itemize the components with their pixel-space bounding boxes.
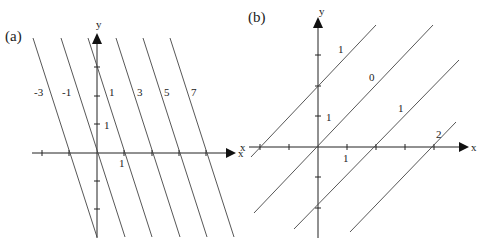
level-label-1: 1 bbox=[109, 86, 115, 98]
level-label-b-1-lower: 1 bbox=[398, 102, 404, 114]
level-label-b-2: 2 bbox=[436, 128, 442, 140]
level-label-neg1: -1 bbox=[62, 86, 71, 98]
panel-b-x-axis-neg-label: x bbox=[240, 141, 246, 153]
level-label-7: 7 bbox=[191, 86, 197, 98]
panel-b-y-arrow-icon bbox=[313, 17, 323, 28]
panel-a-y-axis-label: y bbox=[96, 18, 102, 30]
panel-a: (a) y x 1 1 -3 -1 1 3 5 7 bbox=[5, 18, 244, 238]
panel-b-x-unit-label: 1 bbox=[343, 152, 349, 164]
panel-b-y-unit-label: 1 bbox=[326, 111, 332, 123]
panel-b-x-arrow-icon bbox=[459, 142, 469, 152]
panel-a-level-lines bbox=[33, 38, 234, 237]
level-line-b-0 bbox=[254, 25, 433, 213]
panel-a-x-arrow-icon bbox=[226, 148, 236, 158]
level-line-1 bbox=[88, 38, 152, 237]
panel-a-label: (a) bbox=[5, 28, 22, 45]
level-label-neg3: -3 bbox=[34, 86, 44, 98]
panel-a-y-arrow-icon bbox=[92, 33, 102, 44]
level-line-7 bbox=[170, 38, 234, 237]
panel-a-y-unit-label: 1 bbox=[104, 119, 110, 131]
level-label-5: 5 bbox=[164, 86, 170, 98]
level-line-b-1-upper bbox=[251, 25, 376, 157]
panel-b: (b) y x x 1 1 1 0 1 2 bbox=[240, 5, 477, 238]
panel-a-x-unit-label: 1 bbox=[119, 157, 125, 169]
level-label-b-0: 0 bbox=[369, 71, 375, 83]
panel-b-level-lines bbox=[251, 25, 459, 232]
panel-b-y-axis-label: y bbox=[319, 5, 325, 17]
level-line-neg3 bbox=[33, 38, 97, 237]
level-label-b-1-upper: 1 bbox=[338, 43, 344, 55]
figure: (a) y x 1 1 -3 -1 1 3 5 7 bbox=[0, 0, 477, 245]
level-label-3: 3 bbox=[137, 86, 143, 98]
level-line-5 bbox=[143, 38, 207, 237]
panel-b-label: (b) bbox=[248, 9, 266, 26]
panel-b-x-axis-label: x bbox=[471, 141, 477, 153]
level-line-neg1 bbox=[61, 38, 125, 237]
level-line-3 bbox=[116, 38, 180, 237]
